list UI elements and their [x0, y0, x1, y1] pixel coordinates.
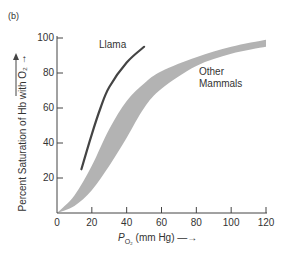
x-axis-units: (mm Hg) —→: [133, 232, 197, 243]
x-tick-label: 60: [150, 217, 174, 228]
x-tick-label: 20: [80, 217, 104, 228]
y-axis-label: Percent Saturation of Hb with O₂ →: [17, 32, 28, 212]
x-ticks: [92, 207, 266, 213]
x-axis-label: PO₂ (mm Hg) —→: [118, 232, 197, 245]
y-tick-label: 40: [30, 137, 54, 148]
y-tick-label: 80: [30, 67, 54, 78]
y-tick-label: 60: [30, 102, 54, 113]
other-mammals-label-line1: Other: [199, 66, 224, 77]
llama-label: Llama: [99, 39, 126, 50]
x-axis-symbol: P: [118, 232, 125, 243]
x-tick-label: 0: [45, 217, 69, 228]
y-ticks: [57, 38, 63, 178]
x-tick-label: 120: [254, 217, 278, 228]
x-tick-label: 80: [184, 217, 208, 228]
y-tick-label: 20: [30, 172, 54, 183]
other-mammals-band: [57, 40, 266, 213]
y-tick-label: 100: [30, 32, 54, 43]
other-mammals-label-line2: Mammals: [199, 78, 242, 89]
x-tick-label: 40: [115, 217, 139, 228]
x-axis-subscript: O₂: [125, 238, 133, 245]
x-tick-label: 100: [219, 217, 243, 228]
